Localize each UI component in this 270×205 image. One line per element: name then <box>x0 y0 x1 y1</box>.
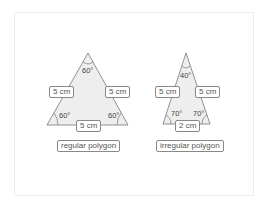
regular-angle-bottom-right: 60° <box>108 112 119 120</box>
triangles-svg <box>0 0 270 205</box>
regular-side-bottom-label: 5 cm <box>76 120 101 132</box>
regular-polygon-caption: regular polygon <box>57 140 120 152</box>
regular-side-left-label: 5 cm <box>49 86 74 98</box>
regular-side-right-label: 5 cm <box>105 86 130 98</box>
irregular-side-bottom-label: 2 cm <box>175 120 200 132</box>
irregular-side-left-label: 5 cm <box>155 86 180 98</box>
irregular-polygon-caption: irregular polygon <box>156 140 224 152</box>
regular-angle-top: 60° <box>82 67 93 75</box>
irregular-angle-bottom-right: 70° <box>193 110 204 118</box>
irregular-angle-top: 40° <box>180 72 191 80</box>
irregular-angle-bottom-left: 70° <box>171 110 182 118</box>
irregular-side-right-label: 5 cm <box>195 86 220 98</box>
regular-angle-bottom-left: 60° <box>59 112 70 120</box>
